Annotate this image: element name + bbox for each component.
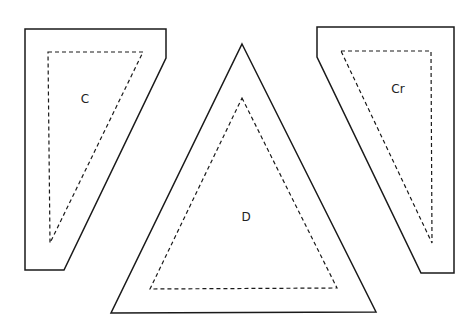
piece-cr-label: Cr — [391, 82, 404, 96]
pattern-diagram: C D Cr — [0, 0, 474, 333]
piece-c-label: C — [81, 92, 89, 106]
piece-d-label: D — [241, 210, 250, 224]
piece-c: C — [25, 29, 166, 270]
